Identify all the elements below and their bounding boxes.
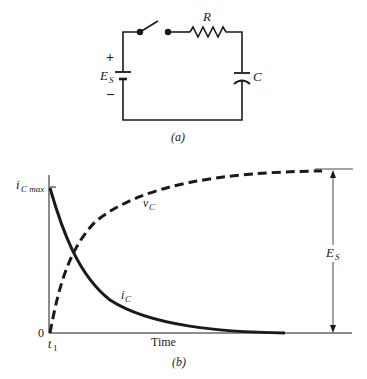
- svg-text:t: t: [48, 337, 52, 351]
- resistor-icon: [190, 27, 242, 72]
- es-label: E S: [325, 245, 340, 262]
- source-label: E S: [99, 68, 114, 85]
- origin-label: 0: [38, 326, 44, 340]
- arrowhead-up-icon: [330, 170, 336, 178]
- vc-label: v C: [143, 196, 156, 212]
- svg-text:C: C: [125, 294, 132, 304]
- caption-b: (b): [172, 355, 186, 369]
- svg-text:1: 1: [53, 343, 58, 353]
- ic-curve: [50, 188, 285, 333]
- wire-left-top: [123, 32, 140, 68]
- t1-label: t 1: [48, 337, 58, 353]
- minus-sign: –: [106, 86, 115, 101]
- svg-text:C: C: [149, 202, 156, 212]
- svg-text:C max: C max: [21, 184, 44, 194]
- capacitor-label: C: [253, 69, 262, 84]
- rc-circuit-figure: R C + – E S (a) E S i C max 0 t 1 Time v…: [0, 0, 367, 379]
- resistor-label: R: [202, 9, 211, 24]
- svg-text:S: S: [109, 75, 114, 85]
- plus-sign: +: [106, 50, 114, 65]
- x-axis-label: Time: [151, 335, 176, 349]
- circuit-diagram: [115, 21, 250, 120]
- svg-text:E: E: [325, 245, 334, 260]
- svg-text:i: i: [16, 177, 20, 192]
- y-max-label: i C max: [16, 177, 44, 194]
- ic-label: i C: [121, 288, 132, 304]
- svg-text:E: E: [99, 68, 108, 83]
- vc-curve: [50, 171, 322, 333]
- wire-bottom: [123, 80, 242, 120]
- svg-text:S: S: [335, 252, 340, 262]
- caption-a: (a): [171, 130, 185, 144]
- graph-axes: [49, 169, 353, 333]
- arrowhead-down-icon: [330, 325, 336, 333]
- svg-text:i: i: [121, 288, 124, 302]
- switch-lever: [140, 21, 158, 32]
